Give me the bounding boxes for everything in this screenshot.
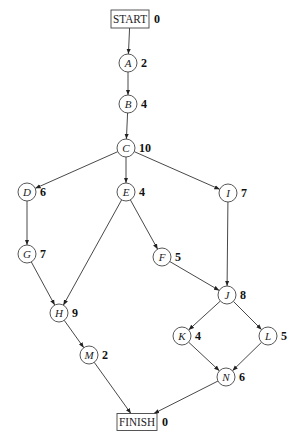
node-i: I7 — [219, 184, 247, 202]
node-m: M2 — [80, 346, 108, 364]
edge-e-to-f — [130, 200, 157, 249]
node-b: B4 — [119, 95, 147, 113]
node-weight: 0 — [162, 415, 168, 429]
edge-j-to-l — [233, 301, 261, 329]
edge-l-to-n — [232, 342, 261, 370]
node-label: M — [83, 349, 94, 361]
node-weight: 6 — [239, 370, 245, 384]
node-h: H9 — [50, 304, 78, 322]
node-weight: 9 — [72, 306, 78, 320]
node-label: F — [158, 251, 166, 263]
node-start: START0 — [111, 10, 160, 28]
node-label: K — [177, 330, 186, 342]
node-l: L5 — [259, 327, 287, 345]
node-weight: 6 — [40, 185, 46, 199]
edge-n-to-finish — [154, 381, 218, 413]
node-a: A2 — [119, 54, 147, 72]
edge-e-to-h — [63, 200, 121, 305]
node-label: A — [124, 57, 132, 69]
node-label: G — [23, 248, 31, 260]
edge-start-to-a — [128, 28, 129, 54]
node-weight: 2 — [141, 56, 147, 70]
node-label: H — [54, 307, 64, 319]
edges-layer — [27, 28, 262, 414]
node-e: E4 — [117, 183, 145, 201]
node-d: D6 — [18, 183, 46, 201]
node-weight: 7 — [40, 247, 46, 261]
node-label: C — [122, 142, 130, 154]
edge-i-to-j — [227, 202, 228, 286]
edge-f-to-j — [170, 262, 219, 291]
edge-k-to-n — [189, 342, 220, 371]
nodes-layer: START0A2B4C10D6E4I7G7F5H9J8K4L5M2N6FINIS… — [18, 10, 287, 431]
node-weight: 7 — [241, 186, 247, 200]
node-weight: 4 — [141, 97, 147, 111]
node-finish: FINISH0 — [117, 414, 168, 431]
node-weight: 8 — [240, 288, 246, 302]
node-n: N6 — [217, 368, 245, 386]
node-label: L — [264, 330, 271, 342]
node-c: C10 — [117, 139, 151, 157]
edge-g-to-h — [31, 262, 54, 305]
node-label: FINISH — [119, 415, 155, 429]
node-g: G7 — [18, 245, 46, 263]
node-weight: 4 — [195, 329, 201, 343]
node-label: D — [22, 186, 31, 198]
node-label: START — [113, 12, 148, 26]
node-label: B — [125, 98, 132, 110]
node-k: K4 — [173, 327, 201, 345]
node-weight: 10 — [139, 141, 151, 155]
edge-b-to-c — [126, 113, 127, 139]
node-weight: 2 — [102, 348, 108, 362]
node-weight: 4 — [139, 185, 145, 199]
node-f: F5 — [153, 248, 181, 266]
edge-c-to-d — [35, 152, 118, 189]
edge-c-to-i — [134, 152, 220, 190]
node-label: E — [122, 186, 130, 198]
node-weight: 5 — [281, 329, 287, 343]
edge-j-to-k — [189, 301, 221, 330]
edge-m-to-finish — [94, 362, 131, 413]
activity-network-diagram: START0A2B4C10D6E4I7G7F5H9J8K4L5M2N6FINIS… — [0, 0, 300, 441]
edge-h-to-m — [64, 320, 84, 347]
node-label: N — [221, 371, 230, 383]
node-weight: 5 — [175, 250, 181, 264]
node-j: J8 — [218, 286, 246, 304]
node-weight: 0 — [154, 12, 160, 26]
